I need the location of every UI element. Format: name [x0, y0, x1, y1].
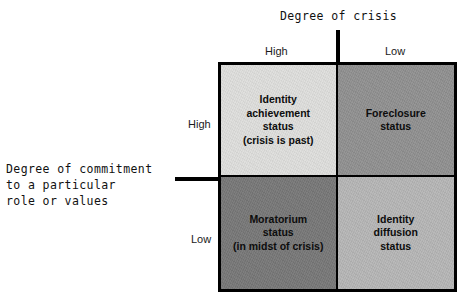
crisis-axis-title: Degree of crisis	[0, 8, 471, 24]
quadrant-label: Foreclosure status	[363, 107, 429, 134]
quadrant-moratorium: Moratorium status (in midst of crisis)	[221, 177, 338, 289]
quadrant-label: Moratorium status (in midst of crisis)	[230, 213, 326, 254]
quadrant-foreclosure: Foreclosure status	[338, 65, 455, 177]
quadrant-label: Identity achievement status (crisis is p…	[240, 93, 317, 147]
commitment-axis-line	[175, 177, 223, 181]
row-tick-low: Low	[191, 233, 211, 245]
quadrant-label: Identity diffusion status	[371, 213, 421, 254]
quadrant-identity-diffusion: Identity diffusion status	[338, 177, 455, 289]
identity-status-matrix: Identity achievement status (crisis is p…	[218, 62, 457, 292]
commitment-axis-title: Degree of commitment to a particular rol…	[6, 161, 152, 209]
column-tick-low: Low	[385, 45, 405, 57]
row-tick-high: High	[188, 118, 211, 130]
quadrant-identity-achievement: Identity achievement status (crisis is p…	[221, 65, 338, 177]
column-tick-high: High	[265, 45, 288, 57]
crisis-axis-line	[336, 30, 340, 66]
